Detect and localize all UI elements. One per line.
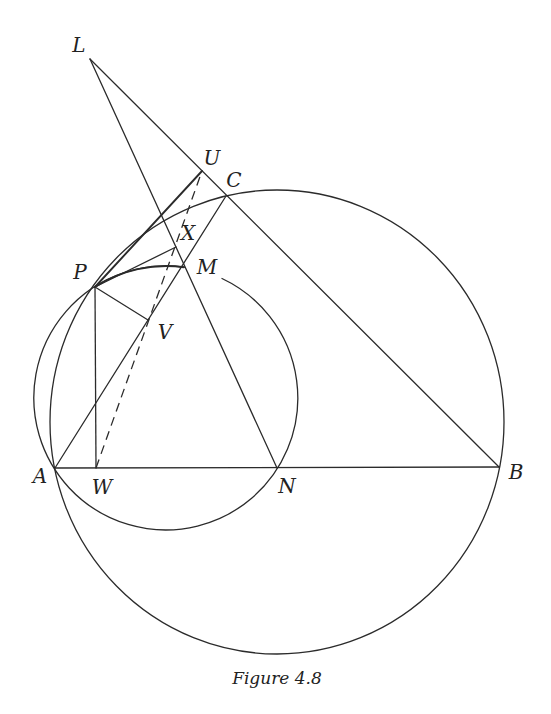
- point-label-V: V: [158, 320, 175, 344]
- point-label-L: L: [71, 33, 85, 57]
- point-label-W: W: [92, 475, 114, 499]
- large-circle: [50, 190, 504, 654]
- segment-PV: [95, 287, 148, 320]
- geometry-figure: L U C X M P V A W N B Figure 4.8: [0, 0, 551, 714]
- point-label-A: A: [31, 464, 47, 488]
- segment-PW: [95, 287, 96, 468]
- point-label-C: C: [226, 168, 241, 192]
- point-label-P: P: [72, 260, 87, 284]
- dashed-segment-WU: [96, 171, 202, 468]
- figure-caption: Figure 4.8: [231, 668, 322, 688]
- small-circle: [34, 266, 298, 530]
- point-label-M: M: [196, 255, 218, 279]
- segment-PX: [95, 247, 176, 287]
- point-label-N: N: [277, 474, 297, 498]
- segment-AB: [55, 467, 499, 468]
- segment-LB: [90, 59, 499, 467]
- point-label-B: B: [508, 460, 524, 484]
- point-label-X: X: [179, 221, 196, 245]
- point-label-U: U: [204, 146, 222, 170]
